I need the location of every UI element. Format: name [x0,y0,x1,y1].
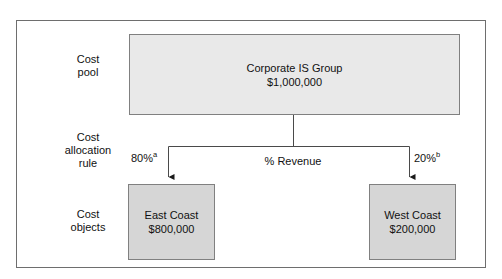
node-east-coast: East Coast $800,000 [128,184,215,260]
edge-label-west-percent: 20%b [414,152,440,165]
node-cost-pool-name: Corporate IS Group [247,61,343,75]
node-west-coast-name: West Coast [384,208,441,222]
node-cost-pool: Corporate IS Group $1,000,000 [129,34,460,115]
node-east-coast-name: East Coast [145,208,199,222]
node-cost-pool-amount: $1,000,000 [267,75,322,89]
edge-label-west-percent-value: 20% [414,152,436,164]
row-label-cost-pool: Cost pool [38,53,138,79]
row-label-cost-objects: Cost objects [38,208,138,234]
cost-allocation-diagram: Cost pool Cost allocation rule Cost obje… [0,0,502,279]
node-west-coast-amount: $200,000 [390,222,436,236]
edge-label-east-percent-value: 80% [131,152,153,164]
node-east-coast-amount: $800,000 [149,222,195,236]
node-west-coast: West Coast $200,000 [369,184,456,260]
edge-label-east-footnote: a [153,150,157,159]
edge-label-allocation-base: % Revenue [243,155,343,168]
edge-label-east-percent: 80%a [131,152,157,165]
edge-label-west-footnote: b [436,150,440,159]
row-label-cost-allocation-rule: Cost allocation rule [38,131,138,170]
